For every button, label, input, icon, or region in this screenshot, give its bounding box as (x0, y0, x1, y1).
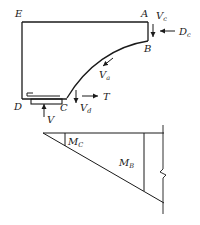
label-Dc: Dc (178, 26, 191, 39)
free-body-element (22, 22, 148, 104)
label-MB: MB (118, 157, 134, 170)
label-V: V (47, 114, 56, 125)
bearing-plate (31, 99, 62, 104)
arrow-Va-icon (103, 58, 113, 66)
curve-B-C (67, 41, 148, 98)
label-Vc: Vc (156, 10, 167, 23)
label-A: A (140, 8, 148, 19)
label-C: C (60, 102, 68, 113)
label-Va: Va (99, 69, 110, 82)
rebar-hook (27, 93, 60, 96)
label-Vd: Vd (80, 102, 91, 115)
label-T: T (103, 91, 111, 102)
label-E: E (14, 8, 23, 19)
moment-diagram (43, 125, 166, 214)
label-MC: MC (67, 136, 83, 149)
label-B: B (143, 43, 151, 54)
structural-diagram: E A B D C Vc Dc Va Vd T V MC MB (0, 0, 200, 225)
label-D: D (13, 101, 22, 112)
moment-slope (43, 133, 164, 203)
